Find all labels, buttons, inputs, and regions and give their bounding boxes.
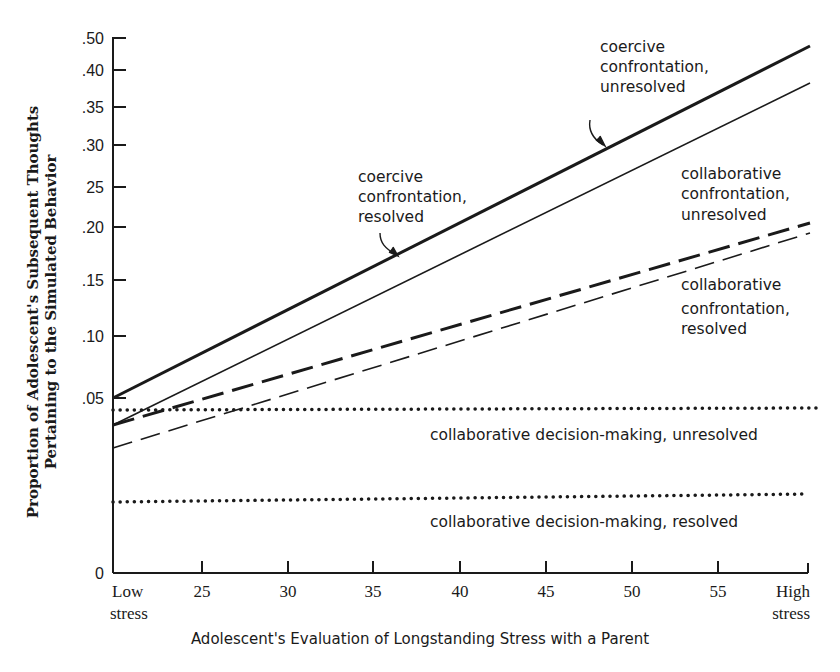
annotation-line: coercive: [358, 168, 423, 186]
x-tick-label: 55: [710, 582, 727, 601]
y-tick-label: 25: [86, 179, 104, 196]
series-collab-decision-resolved: [113, 494, 808, 502]
x-tick-label-low-stress: stress: [110, 604, 148, 623]
y-tick-label: .20: [82, 219, 104, 236]
y-axis-title-line1: Proportion of Adolescent's Subsequent Th…: [24, 106, 42, 519]
annotation-coercive-resolved: coercive confrontation, resolved: [358, 168, 467, 226]
annotation-line: confrontation,: [358, 188, 467, 206]
annotation-line: collaborative: [681, 165, 781, 183]
x-tick-label: 40: [452, 582, 469, 601]
annotation-line: unresolved: [600, 78, 686, 96]
x-tick-label: 50: [624, 582, 641, 601]
annotation-line: resolved: [358, 208, 424, 226]
x-tick-label-high-stress: stress: [772, 604, 810, 623]
annotation-line: confrontation,: [681, 300, 790, 318]
annotation-line: collaborative: [681, 276, 781, 294]
x-tick-label: 35: [365, 582, 382, 601]
x-tick-label: 25: [194, 582, 211, 601]
x-axis-title: Adolescent's Evaluation of Longstanding …: [191, 630, 649, 648]
y-tick-label: .30: [82, 137, 104, 154]
y-tick-label: .40: [82, 62, 104, 79]
arrowhead-icon: [389, 247, 398, 256]
y-tick-label: .15: [82, 272, 104, 289]
x-tick-labels: Low stress 25 30 35 40 45 50 55 High str…: [110, 582, 811, 623]
x-tick-label: 45: [538, 582, 555, 601]
annotation-line: unresolved: [681, 206, 767, 224]
annotation-line: coercive: [600, 38, 665, 56]
x-tick-label-high: High: [776, 582, 811, 601]
annotation-line: confrontation,: [681, 185, 790, 203]
series-collab-decision-unresolved: [113, 408, 816, 410]
y-axis-title: Proportion of Adolescent's Subsequent Th…: [24, 106, 60, 519]
annotation-collab-decision-resolved: collaborative decision-making, resolved: [430, 513, 738, 531]
annotation-collab-confrontation-resolved: collaborative confrontation, resolved: [681, 276, 790, 338]
line-chart: Proportion of Adolescent's Subsequent Th…: [0, 0, 840, 672]
annotation-collab-decision-unresolved: collaborative decision-making, unresolve…: [430, 426, 758, 444]
y-tick-label: .05: [82, 390, 104, 407]
y-tick-label: .35: [82, 99, 104, 116]
annotation-line: confrontation,: [600, 58, 709, 76]
annotation-line: resolved: [681, 320, 747, 338]
arrowhead-icon: [596, 136, 605, 146]
annotation-coercive-unresolved: coercive confrontation, unresolved: [600, 38, 709, 96]
y-tick-labels: .50 .40 .35 .30 25 .20 .15 .10 .05 0: [82, 30, 104, 582]
y-tick-label: 0: [95, 565, 104, 582]
x-tick-label: 30: [280, 582, 297, 601]
series-coercive-resolved: [113, 83, 810, 425]
x-tick-label-low: Low: [112, 582, 144, 601]
y-tick-label: .50: [82, 30, 104, 47]
annotation-collab-confrontation-unresolved: collaborative confrontation, unresolved: [681, 165, 790, 224]
y-axis-title-line2: Pertaining to the Simulated Behavior: [42, 154, 60, 470]
y-tick-label: .10: [82, 328, 104, 345]
series-collab-confrontation-resolved: [113, 233, 810, 448]
